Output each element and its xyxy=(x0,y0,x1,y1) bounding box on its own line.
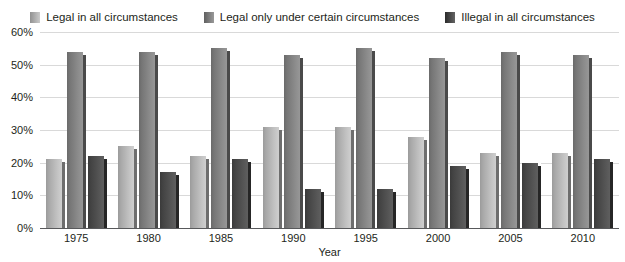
bar-top-corner xyxy=(300,55,303,58)
bar-top-corner xyxy=(104,156,107,159)
x-axis-title: Year xyxy=(40,246,619,259)
bar[interactable] xyxy=(88,156,107,228)
bar-side-shadow xyxy=(134,149,137,228)
bar-side-shadow xyxy=(83,55,86,228)
bar[interactable] xyxy=(211,48,230,228)
bar-side-shadow xyxy=(372,51,375,228)
y-axis: 60%50%40%30%20%10%0% xyxy=(0,32,38,228)
legend-label: Legal in all circumstances xyxy=(46,11,178,24)
x-axis-tick-label: 1985 xyxy=(185,231,257,247)
bar-top-corner xyxy=(496,153,499,156)
bar-side-shadow xyxy=(393,192,396,228)
bar-side-shadow xyxy=(206,159,209,228)
bar-face xyxy=(480,153,496,228)
bar-top-corner xyxy=(424,137,427,140)
bar[interactable] xyxy=(480,153,499,228)
bar-face xyxy=(232,159,248,228)
bar-face xyxy=(552,153,568,228)
bar-side-shadow xyxy=(589,58,592,228)
bar[interactable] xyxy=(139,52,158,228)
bar-top-corner xyxy=(206,156,209,159)
x-axis-tick-label: 1980 xyxy=(112,231,184,247)
bar[interactable] xyxy=(377,189,396,228)
bar-side-shadow xyxy=(279,130,282,228)
bar[interactable] xyxy=(67,52,86,228)
bar[interactable] xyxy=(594,159,613,228)
bar-face xyxy=(67,52,83,228)
bar[interactable] xyxy=(46,159,65,228)
bar-face xyxy=(335,127,351,228)
bar[interactable] xyxy=(232,159,251,228)
bar-top-corner xyxy=(227,48,230,51)
bar-face xyxy=(408,137,424,228)
bar-side-shadow xyxy=(351,130,354,228)
bar[interactable] xyxy=(160,172,179,228)
bar-side-shadow xyxy=(568,156,571,228)
bar[interactable] xyxy=(356,48,375,228)
legend-swatch-icon xyxy=(30,12,40,23)
bar-top-corner xyxy=(445,58,448,61)
bar-side-shadow xyxy=(496,156,499,228)
bar[interactable] xyxy=(501,52,520,228)
bar-top-corner xyxy=(279,127,282,130)
bar-chart: Legal in all circumstancesLegal only und… xyxy=(0,0,625,262)
legend-item[interactable]: Legal in all circumstances xyxy=(30,11,178,24)
bar-face xyxy=(263,127,279,228)
bar-side-shadow xyxy=(424,140,427,228)
bar-side-shadow xyxy=(248,162,251,228)
bar-top-corner xyxy=(134,146,137,149)
bar-group xyxy=(185,32,257,228)
bar-face xyxy=(211,48,227,228)
y-axis-tick-label: 20% xyxy=(11,157,33,169)
bar-face xyxy=(160,172,176,228)
bar-face xyxy=(46,159,62,228)
bar[interactable] xyxy=(408,137,427,228)
bar[interactable] xyxy=(552,153,571,228)
bar[interactable] xyxy=(118,146,137,228)
x-axis-tick-label: 1995 xyxy=(330,231,402,247)
bar-top-corner xyxy=(517,52,520,55)
bar-group xyxy=(257,32,329,228)
y-axis-tick-label: 10% xyxy=(11,189,33,201)
bar-top-corner xyxy=(393,189,396,192)
bar[interactable] xyxy=(335,127,354,228)
plot-area: 60%50%40%30%20%10%0% xyxy=(0,32,625,232)
legend-item[interactable]: Legal only under certain circumstances xyxy=(204,11,419,24)
bar[interactable] xyxy=(573,55,592,228)
y-axis-tick-label: 60% xyxy=(11,26,33,38)
bar-face xyxy=(305,189,321,228)
bar[interactable] xyxy=(522,163,541,228)
bar-face xyxy=(522,163,538,228)
y-axis-tick-label: 40% xyxy=(11,91,33,103)
bar-side-shadow xyxy=(610,162,613,228)
bar[interactable] xyxy=(429,58,448,228)
bar[interactable] xyxy=(305,189,324,228)
bar[interactable] xyxy=(450,166,469,228)
bar-group xyxy=(112,32,184,228)
bar-face xyxy=(284,55,300,228)
bar-face xyxy=(356,48,372,228)
bar-face xyxy=(429,58,445,228)
legend-item[interactable]: Illegal in all circumstances xyxy=(445,11,595,24)
chart-legend: Legal in all circumstancesLegal only und… xyxy=(0,8,625,26)
bar[interactable] xyxy=(284,55,303,228)
bar-face xyxy=(139,52,155,228)
bar-face xyxy=(450,166,466,228)
y-axis-tick-label: 0% xyxy=(17,222,33,234)
bar-top-corner xyxy=(176,172,179,175)
bar-side-shadow xyxy=(321,192,324,228)
bar-face xyxy=(88,156,104,228)
bar-top-corner xyxy=(62,159,65,162)
bar-face xyxy=(118,146,134,228)
bar[interactable] xyxy=(263,127,282,228)
x-axis-tick-label: 1990 xyxy=(257,231,329,247)
bar-side-shadow xyxy=(538,166,541,228)
bars-layer xyxy=(40,32,619,228)
bar[interactable] xyxy=(190,156,209,228)
x-axis-tick-label: 2010 xyxy=(547,231,619,247)
bar-group xyxy=(402,32,474,228)
bar-face xyxy=(190,156,206,228)
bar-face xyxy=(377,189,393,228)
bar-top-corner xyxy=(466,166,469,169)
bar-side-shadow xyxy=(445,61,448,228)
